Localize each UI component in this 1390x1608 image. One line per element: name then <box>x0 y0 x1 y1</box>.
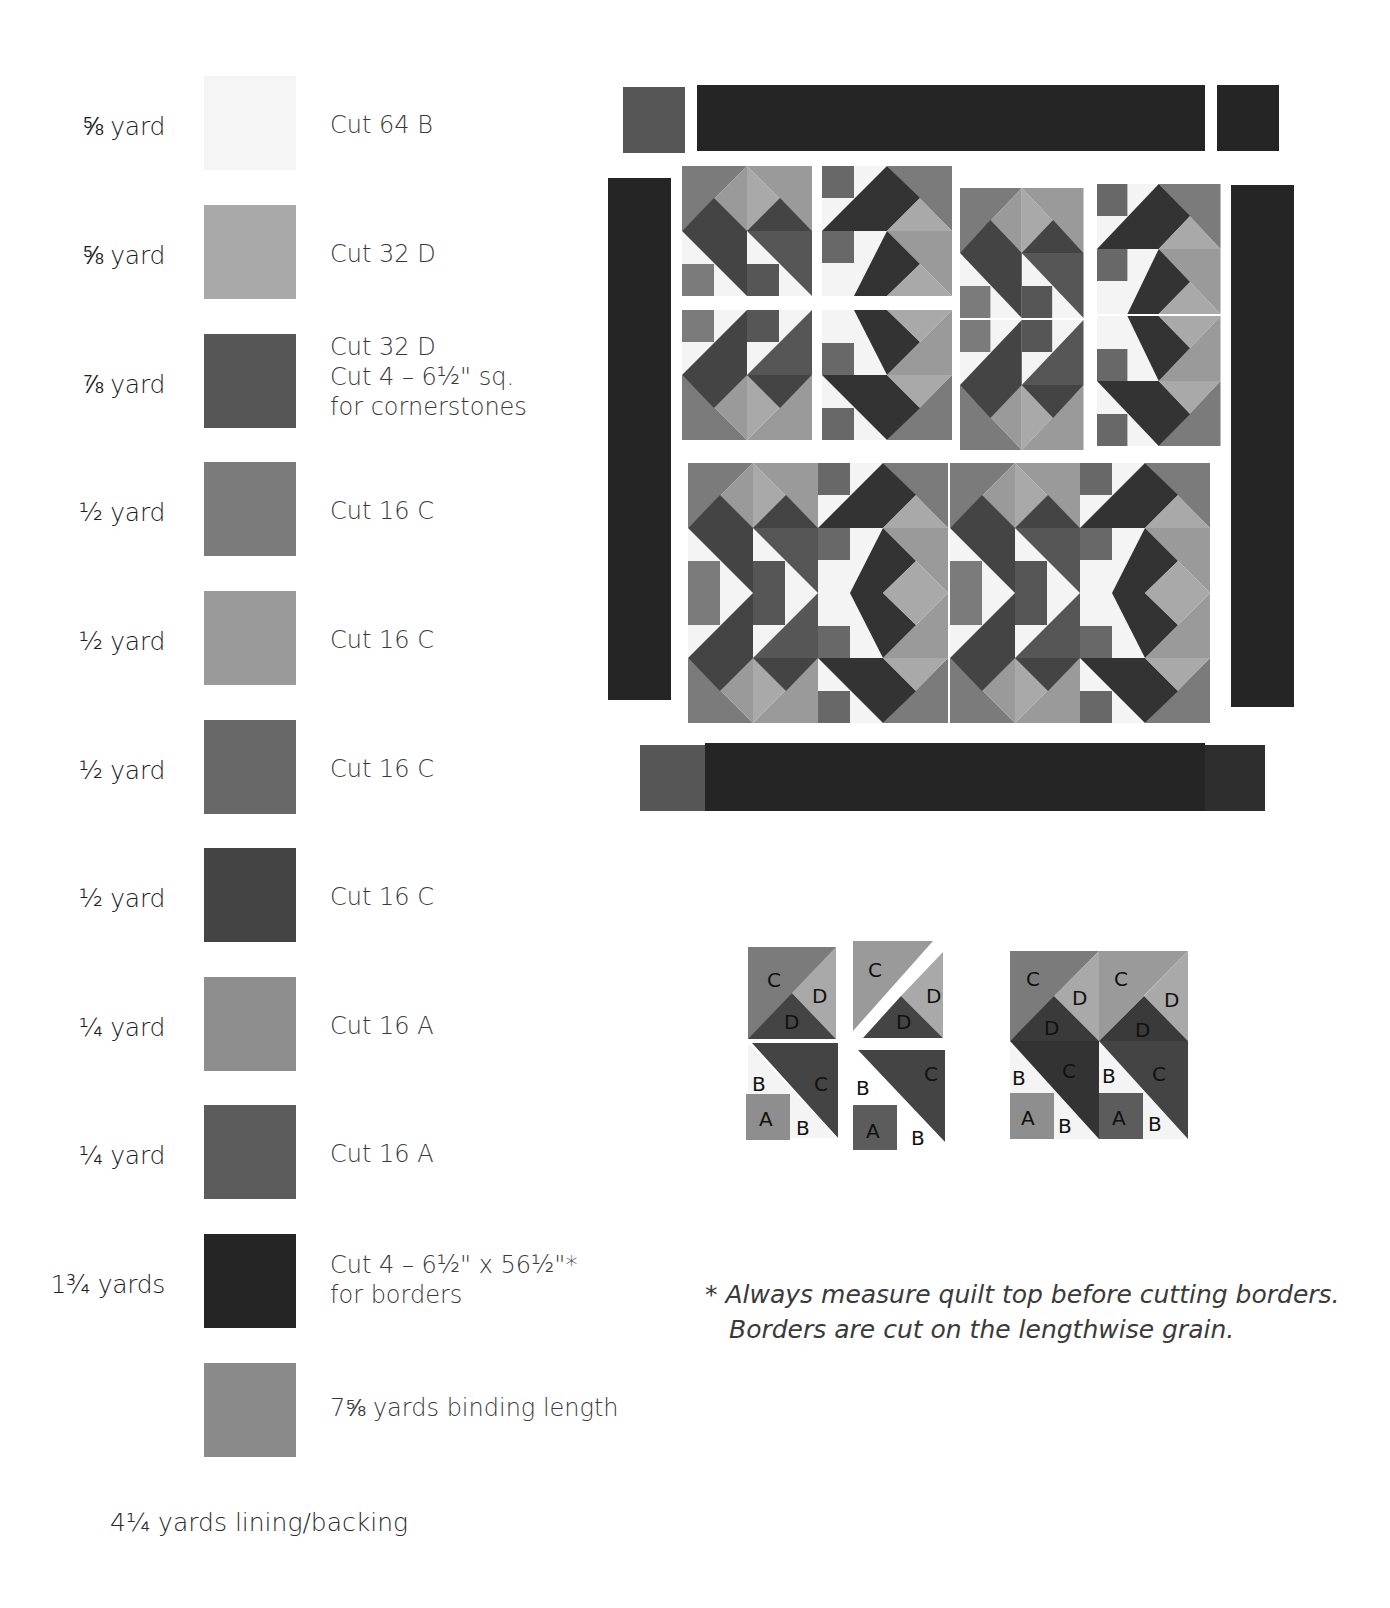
unit-exploded-2: C D D C B A B <box>853 941 945 1150</box>
cornerstone <box>623 87 685 153</box>
cut-instruction: Cut 64 B <box>330 110 433 140</box>
fabric-swatch <box>204 1105 296 1199</box>
cut-instruction: 7⅝ yards binding length <box>330 1393 619 1423</box>
border-note-line-2: Borders are cut on the lengthwise grain. <box>705 1312 1340 1347</box>
yardage: ½ yard <box>79 627 165 656</box>
piece-label: D <box>926 984 941 1008</box>
cut-instruction: Cut 16 C <box>330 882 434 912</box>
cut-instruction: Cut 16 A <box>330 1139 434 1169</box>
quilt-block-large <box>950 463 1210 723</box>
fabric-swatch <box>204 205 296 299</box>
material-row: ½ yard Cut 16 C <box>0 591 640 691</box>
yardage: ½ yard <box>79 498 165 527</box>
piece-label: C <box>868 958 882 982</box>
material-row: ⅝ yard Cut 32 D <box>0 205 640 305</box>
quilt-block <box>682 166 952 440</box>
fabric-swatch <box>204 1363 296 1457</box>
material-row: ½ yard Cut 16 C <box>0 462 640 562</box>
material-row: ¼ yard Cut 16 A <box>0 977 640 1077</box>
piece-label: B <box>856 1076 870 1100</box>
cut-instruction: Cut 4 – 6½" x 56½"* for borders <box>330 1250 577 1310</box>
unit-assembled: C D D C D D B C B C A B A B <box>1010 951 1188 1139</box>
fabric-swatch <box>204 977 296 1071</box>
yardage: ½ yard <box>79 756 165 785</box>
fabric-swatch <box>204 848 296 942</box>
fabric-swatch <box>204 334 296 428</box>
yardage: ⅝ yard <box>82 241 165 270</box>
piece-label: B <box>796 1116 810 1140</box>
border-strip-top <box>697 85 1205 151</box>
piece-label: B <box>911 1126 925 1150</box>
yardage: ½ yard <box>79 884 165 913</box>
cornerstone <box>1205 745 1265 811</box>
yardage: 1¾ yards <box>50 1270 165 1299</box>
piece-label: C <box>767 968 781 992</box>
piece-label: C <box>924 1062 938 1086</box>
piece-label: C <box>1062 1059 1076 1083</box>
piece-label: D <box>812 984 827 1008</box>
piece-label: C <box>1152 1062 1166 1086</box>
quilt-layout-diagram <box>600 80 1310 820</box>
yardage: ¼ yard <box>79 1013 165 1042</box>
quilt-block <box>960 184 1221 450</box>
yardage: ⅞ yard <box>82 370 165 399</box>
material-row: 7⅝ yards binding length <box>0 1363 640 1463</box>
piece-label: D <box>896 1010 911 1034</box>
piece-label: A <box>1112 1106 1126 1130</box>
fabric-swatch <box>204 720 296 814</box>
border-strip-bottom <box>705 743 1205 811</box>
piece-label: B <box>1012 1066 1026 1090</box>
piece-label: C <box>814 1072 828 1096</box>
border-strip-left <box>608 178 671 700</box>
material-row: ⅞ yard Cut 32 D Cut 4 – 6½" sq. for corn… <box>0 334 640 434</box>
fabric-swatch <box>204 1234 296 1328</box>
fabric-swatch <box>204 462 296 556</box>
piece-label: A <box>866 1119 880 1143</box>
fabric-swatch <box>204 76 296 170</box>
piece-label: A <box>1021 1106 1035 1130</box>
piece-label: B <box>1102 1064 1116 1088</box>
cornerstone <box>640 745 705 811</box>
cut-instruction: Cut 32 D <box>330 239 436 269</box>
piece-label: D <box>1044 1016 1059 1040</box>
cut-instruction: Cut 16 C <box>330 625 434 655</box>
piece-label: D <box>784 1010 799 1034</box>
fabric-swatch <box>204 591 296 685</box>
piece-label: D <box>1164 988 1179 1012</box>
piece-label: B <box>1058 1114 1072 1138</box>
material-row: 1¾ yards Cut 4 – 6½" x 56½"* for borders <box>0 1234 640 1334</box>
piece-label: D <box>1135 1018 1150 1042</box>
cornerstone <box>1217 85 1279 151</box>
material-row: ⅝ yard Cut 64 B <box>0 76 640 176</box>
cut-instruction: Cut 16 C <box>330 496 434 526</box>
piece-label: D <box>1072 986 1087 1010</box>
backing-note: 4¼ yards lining/backing <box>110 1508 408 1537</box>
quilt-block-large <box>688 463 948 723</box>
material-row: ½ yard Cut 16 C <box>0 720 640 820</box>
material-row: ½ yard Cut 16 C <box>0 848 640 948</box>
piece-label: B <box>752 1072 766 1096</box>
yardage: ⅝ yard <box>82 112 165 141</box>
border-strip-right <box>1231 185 1294 707</box>
unit-exploded-1: C D D C B A B <box>746 947 838 1140</box>
border-note: * Always measure quilt top before cuttin… <box>705 1277 1340 1347</box>
piece-label: C <box>1026 967 1040 991</box>
cut-instruction: Cut 16 A <box>330 1011 434 1041</box>
material-row: ¼ yard Cut 16 A <box>0 1105 640 1205</box>
yardage: ¼ yard <box>79 1141 165 1170</box>
cut-instruction: Cut 16 C <box>330 754 434 784</box>
piece-label: B <box>1148 1112 1162 1136</box>
piece-label: C <box>1114 967 1128 991</box>
piece-label: A <box>759 1107 773 1131</box>
cut-instruction: Cut 32 D Cut 4 – 6½" sq. for cornerstone… <box>330 332 527 422</box>
piecing-diagram: C D D C B A B C D D C B A B C <box>740 935 1200 1160</box>
border-note-line-1: * Always measure quilt top before cuttin… <box>705 1280 1340 1309</box>
